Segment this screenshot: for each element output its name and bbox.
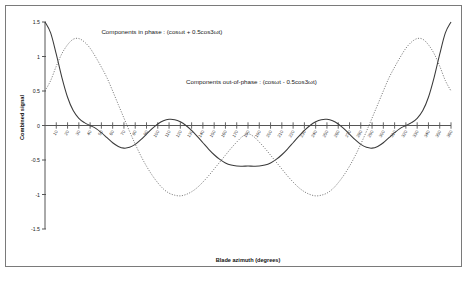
x-tick-label: 230	[299, 129, 307, 138]
series-group	[45, 22, 451, 196]
y-axis-title: Combined signal	[19, 95, 25, 141]
x-tick-label: 220	[288, 129, 296, 138]
chart-plot: 1.510.50-0.5-1-1.5 102030405060708090100…	[0, 0, 473, 281]
x-tick-label: 110	[164, 129, 172, 138]
x-tick-label: 350	[434, 129, 442, 138]
x-tick-label: 120	[175, 129, 183, 138]
x-tick-label: 100	[152, 129, 160, 138]
x-axis-title: Blade azimuth (degrees)	[216, 257, 281, 263]
series-line-out-of-phase	[45, 38, 451, 196]
x-tick-label: 80	[131, 129, 138, 136]
x-tick-label: 340	[423, 129, 431, 138]
axis-title-group: Blade azimuth (degrees)Combined signal	[19, 95, 280, 263]
x-tick-label: 300	[378, 129, 386, 138]
y-tick-label: 0.5	[33, 88, 40, 94]
in-phase-label: Components in phase : (cosωt + 0.5cos3ωt…	[101, 28, 222, 35]
x-tick-label: 190	[254, 129, 262, 138]
x-tick-label: 40	[86, 129, 93, 136]
x-tick-label: 160	[220, 129, 228, 138]
x-tick-label: 10	[52, 129, 59, 136]
x-tick-label: 250	[321, 129, 329, 138]
x-tick-label: 280	[355, 129, 363, 138]
y-tick-label: -0.5	[31, 157, 40, 163]
y-tick-label: 0	[37, 123, 40, 129]
series-line-in-phase	[45, 22, 451, 166]
x-tick-label: 140	[197, 129, 205, 138]
x-tick-label: 320	[400, 129, 408, 138]
y-tick-label: -1.5	[31, 226, 40, 232]
x-tick-label: 130	[186, 129, 194, 138]
x-tick-label: 330	[412, 129, 420, 138]
x-tick-group: 1020304050607080901001101201301401501601…	[52, 122, 454, 138]
y-tick-group: 1.510.50-0.5-1-1.5	[31, 19, 46, 232]
x-tick-label: 290	[367, 129, 375, 138]
x-tick-label: 20	[63, 129, 70, 136]
figure-container: 1.510.50-0.5-1-1.5 102030405060708090100…	[0, 0, 473, 281]
x-tick-label: 240	[310, 129, 318, 138]
y-tick-label: 1	[37, 54, 40, 60]
x-tick-label: 200	[265, 129, 273, 138]
y-tick-label: 1.5	[33, 19, 40, 25]
x-tick-label: 210	[276, 129, 284, 138]
out-of-phase-label: Components out-of-phase : (cosωt - 0.5co…	[186, 78, 317, 85]
x-tick-label: 60	[108, 129, 115, 136]
x-tick-label: 360	[445, 129, 453, 138]
x-tick-label: 70	[120, 129, 127, 136]
x-tick-label: 180	[242, 129, 250, 138]
annotation-group: Components in phase : (cosωt + 0.5cos3ωt…	[101, 28, 316, 85]
x-tick-label: 30	[75, 129, 82, 136]
x-tick-label: 260	[333, 129, 341, 138]
x-tick-label: 170	[231, 129, 239, 138]
x-tick-label: 150	[209, 129, 217, 138]
y-tick-label: -1	[35, 192, 40, 198]
